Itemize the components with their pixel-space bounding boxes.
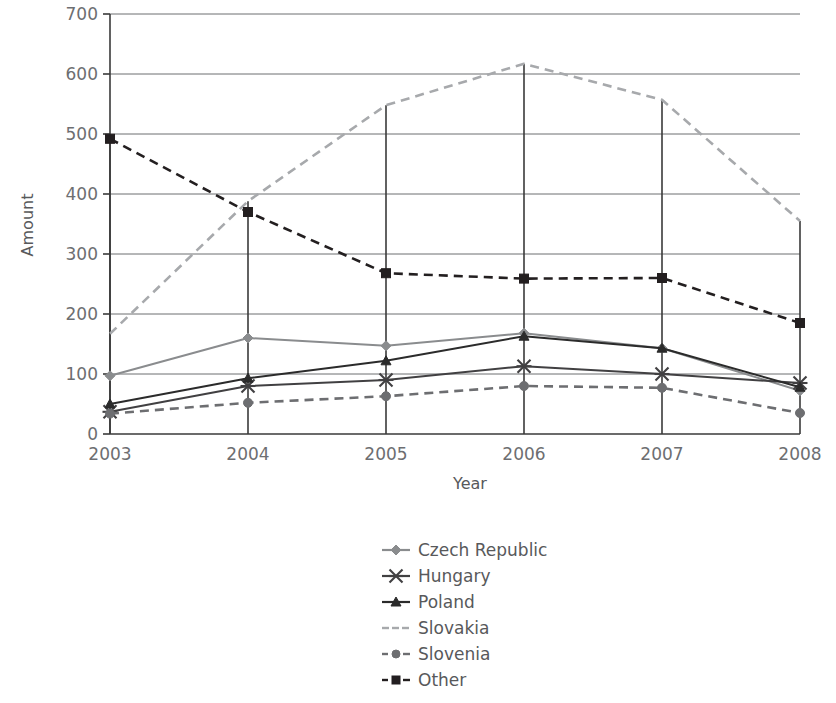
x-axis-tick-labels: 200320042005200620072008 <box>88 444 821 464</box>
marker-circle <box>796 409 805 418</box>
marker-circle <box>106 409 115 418</box>
y-tick-500: 500 <box>66 124 98 144</box>
marker-diamond <box>381 341 391 351</box>
y-tick-400: 400 <box>66 184 98 204</box>
x-tick-2005: 2005 <box>364 444 407 464</box>
legend-item-slovenia[interactable]: Slovenia <box>382 644 490 664</box>
series-line <box>110 64 800 334</box>
legend-item-czech-republic[interactable]: Czech Republic <box>382 540 547 560</box>
legend-label: Other <box>418 670 466 690</box>
x-tick-2006: 2006 <box>502 444 545 464</box>
line-chart: 0100200300400500600700 20032004200520062… <box>0 0 836 703</box>
y-tick-700: 700 <box>66 4 98 24</box>
marker-diamond <box>391 545 401 555</box>
y-tick-600: 600 <box>66 64 98 84</box>
x-tick-2008: 2008 <box>778 444 821 464</box>
marker-square <box>520 274 529 283</box>
series-slovakia <box>110 64 800 334</box>
legend-item-other[interactable]: Other <box>382 670 466 690</box>
y-tick-100: 100 <box>66 364 98 384</box>
legend-label: Hungary <box>418 566 491 586</box>
series-line <box>110 139 800 323</box>
marker-circle <box>382 392 391 401</box>
x-axis-title: Year <box>452 474 487 493</box>
marker-star <box>389 570 404 583</box>
marker-square <box>392 676 400 684</box>
marker-square <box>382 269 391 278</box>
legend-label: Slovenia <box>418 644 490 664</box>
y-axis-title: Amount <box>18 194 37 257</box>
x-tick-2003: 2003 <box>88 444 131 464</box>
marker-square <box>244 208 253 217</box>
y-tick-300: 300 <box>66 244 98 264</box>
legend-label: Czech Republic <box>418 540 547 560</box>
marker-circle <box>658 383 667 392</box>
series-line <box>110 366 800 412</box>
legend-item-hungary[interactable]: Hungary <box>382 566 491 586</box>
y-axis-tick-labels: 0100200300400500600700 <box>66 4 98 444</box>
legend-label: Slovakia <box>418 618 489 638</box>
chart-canvas: 0100200300400500600700 20032004200520062… <box>0 0 836 703</box>
y-tick-0: 0 <box>87 424 98 444</box>
series-poland <box>105 331 805 408</box>
y-tick-200: 200 <box>66 304 98 324</box>
series-slovenia <box>106 382 805 419</box>
marker-diamond <box>243 333 253 343</box>
series-layer <box>103 64 808 419</box>
marker-circle <box>244 398 253 407</box>
legend: Czech RepublicHungaryPolandSlovakiaSlove… <box>382 540 547 690</box>
marker-circle <box>392 650 400 658</box>
series-line <box>110 333 800 391</box>
series-hungary <box>103 360 808 419</box>
marker-circle <box>520 382 529 391</box>
legend-item-poland[interactable]: Poland <box>382 592 475 612</box>
x-tick-2004: 2004 <box>226 444 269 464</box>
x-tick-2007: 2007 <box>640 444 683 464</box>
series-other <box>106 134 805 327</box>
marker-square <box>796 319 805 328</box>
category-vertical-lines <box>110 64 800 434</box>
legend-item-slovakia[interactable]: Slovakia <box>382 618 489 638</box>
marker-square <box>658 274 667 283</box>
series-line <box>110 386 800 414</box>
gridlines <box>103 14 800 434</box>
marker-diamond <box>105 371 115 381</box>
marker-square <box>106 134 115 143</box>
legend-label: Poland <box>418 592 475 612</box>
